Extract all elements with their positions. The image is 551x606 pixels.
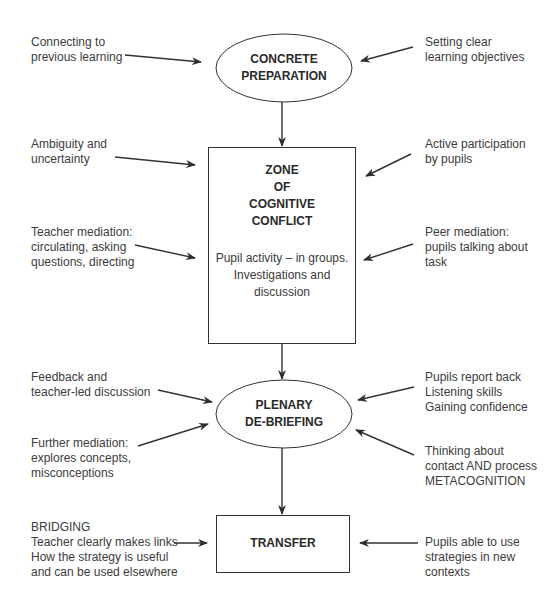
- label-line: circulating, asking: [31, 240, 134, 255]
- label-line: task: [425, 255, 528, 270]
- label-line: learning objectives: [425, 50, 524, 65]
- zone-title-line: COGNITIVE: [208, 196, 356, 213]
- label-line: METACOGNITION: [425, 474, 537, 489]
- transfer-text: TRANSFER: [216, 535, 350, 552]
- label-line: contexts: [425, 565, 520, 580]
- arrow-left-plenary-feedback: [158, 390, 212, 402]
- label-line: misconceptions: [31, 466, 131, 481]
- arrow-left-plenary-mediation: [138, 424, 208, 446]
- zone-description: Pupil activity – in groups. Investigatio…: [208, 250, 356, 301]
- label-line: teacher-led discussion: [31, 385, 150, 400]
- zone-title-line: CONFLICT: [208, 213, 356, 230]
- concrete-preparation-label: CONCRETE PREPARATION: [216, 51, 352, 85]
- label-line: strategies in new: [425, 550, 520, 565]
- label-line: Thinking about: [425, 444, 537, 459]
- right-label-peer-mediation: Peer mediation: pupils talking about tas…: [425, 225, 528, 270]
- arrow-right-plenary-report: [358, 387, 414, 400]
- arrow-left-concrete: [125, 55, 201, 62]
- label-line: and can be used elsewhere: [31, 565, 178, 580]
- left-label-further-mediation: Further mediation: explores concepts, mi…: [31, 436, 131, 481]
- right-label-report-back: Pupils report back Listening skills Gain…: [425, 370, 528, 415]
- concrete-line1: CONCRETE: [216, 51, 352, 68]
- zone-body-line: Pupil activity – in groups.: [208, 250, 356, 267]
- arrow-left-zone-ambiguity: [115, 157, 195, 165]
- arrow-right-zone-peer: [364, 244, 413, 260]
- right-label-metacognition: Thinking about contact AND process METAC…: [425, 444, 537, 489]
- label-line: How the strategy is useful: [31, 550, 178, 565]
- label-line: Connecting to: [31, 35, 122, 50]
- label-line: Teacher clearly makes links: [31, 535, 178, 550]
- right-label-strategies: Pupils able to use strategies in new con…: [425, 535, 520, 580]
- label-line: Ambiguity and: [31, 137, 107, 152]
- zone-body-line: discussion: [208, 284, 356, 301]
- label-line: Pupils able to use: [425, 535, 520, 550]
- zone-body-line: Investigations and: [208, 267, 356, 284]
- concrete-line2: PREPARATION: [216, 68, 352, 85]
- arrow-right-plenary-thinking: [356, 430, 414, 455]
- zone-title: ZONE OF COGNITIVE CONFLICT: [208, 162, 356, 230]
- zone-title-line: OF: [208, 179, 356, 196]
- left-label-teacher-mediation: Teacher mediation: circulating, asking q…: [31, 225, 134, 270]
- arrow-right-concrete: [361, 47, 413, 61]
- arrow-right-zone-active: [366, 154, 411, 176]
- flow-diagram-canvas: [0, 0, 551, 606]
- label-line: uncertainty: [31, 152, 107, 167]
- label-line: Setting clear: [425, 35, 524, 50]
- left-label-bridging: BRIDGING Teacher clearly makes links How…: [31, 520, 178, 580]
- zone-title-line: ZONE: [208, 162, 356, 179]
- label-line: Feedback and: [31, 370, 150, 385]
- left-label-ambiguity: Ambiguity and uncertainty: [31, 137, 107, 167]
- arrow-left-zone-teacher: [135, 245, 195, 258]
- right-label-objectives: Setting clear learning objectives: [425, 35, 524, 65]
- left-label-feedback: Feedback and teacher-led discussion: [31, 370, 150, 400]
- label-line: Teacher mediation:: [31, 225, 134, 240]
- label-line: contact AND process: [425, 459, 537, 474]
- label-line: Pupils report back: [425, 370, 528, 385]
- right-label-active-participation: Active participation by pupils: [425, 137, 526, 167]
- plenary-line2: DE-BRIEFING: [216, 414, 352, 431]
- label-line: BRIDGING: [31, 520, 178, 535]
- label-line: by pupils: [425, 152, 526, 167]
- label-line: previous learning: [31, 50, 122, 65]
- transfer-label: TRANSFER: [216, 535, 350, 552]
- label-line: questions, directing: [31, 255, 134, 270]
- label-line: Active participation: [425, 137, 526, 152]
- label-line: Gaining confidence: [425, 400, 528, 415]
- plenary-debriefing-label: PLENARY DE-BRIEFING: [216, 397, 352, 431]
- left-label-connecting: Connecting to previous learning: [31, 35, 122, 65]
- label-line: Further mediation:: [31, 436, 131, 451]
- label-line: pupils talking about: [425, 240, 528, 255]
- label-line: explores concepts,: [31, 451, 131, 466]
- label-line: Listening skills: [425, 385, 528, 400]
- label-line: Peer mediation:: [425, 225, 528, 240]
- plenary-line1: PLENARY: [216, 397, 352, 414]
